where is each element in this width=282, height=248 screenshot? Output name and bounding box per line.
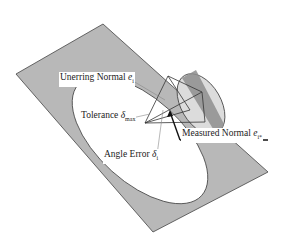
label-tolerance: Tolerance δmax — [80, 110, 136, 125]
diagram-canvas — [0, 0, 282, 248]
subscript: i — [132, 78, 134, 84]
subscript: i* — [257, 134, 262, 140]
label-measured-normal: Measured Normal ei* — [181, 128, 263, 143]
label-text: Tolerance — [81, 110, 121, 120]
label-text: Measured Normal — [182, 128, 253, 138]
subscript: max — [125, 116, 135, 122]
label-unerring-normal: Unerring Normal ei — [59, 72, 135, 87]
subscript: i — [156, 155, 158, 161]
label-text: Angle Error — [104, 149, 152, 159]
label-angle-error: Angle Error δi — [103, 149, 159, 164]
label-text: Unerring Normal — [60, 72, 128, 82]
